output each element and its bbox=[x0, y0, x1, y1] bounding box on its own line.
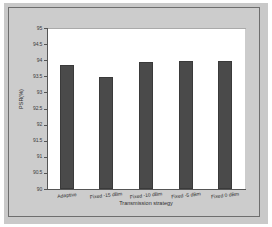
y-axis-tick-label: 95 bbox=[17, 26, 42, 31]
y-axis-tick bbox=[44, 173, 48, 174]
bar bbox=[139, 62, 153, 189]
y-axis-tick bbox=[44, 157, 48, 158]
y-axis-tick bbox=[44, 28, 48, 29]
y-axis-tick bbox=[44, 44, 48, 45]
y-axis-tick bbox=[44, 92, 48, 93]
bar bbox=[179, 61, 193, 189]
bar bbox=[60, 65, 74, 189]
y-axis-title: PSR(%) bbox=[18, 69, 24, 129]
y-axis-tick bbox=[44, 76, 48, 77]
y-axis-tick-label: 94.5 bbox=[17, 42, 42, 47]
axis-line-top bbox=[47, 28, 246, 29]
y-axis-tick-label: 90.5 bbox=[17, 170, 42, 175]
y-axis-tick-label: 91 bbox=[17, 154, 42, 159]
y-axis-tick-label: 91.5 bbox=[17, 138, 42, 143]
chart-screenshot: 9090.59191.59292.59393.59494.595 PSR(%) … bbox=[0, 0, 272, 227]
x-axis-title: Transmission strategy bbox=[47, 200, 245, 206]
y-axis-tick bbox=[44, 189, 48, 190]
y-axis-tick bbox=[44, 125, 48, 126]
bar bbox=[99, 77, 113, 189]
bar bbox=[218, 61, 232, 189]
y-axis-tick bbox=[44, 141, 48, 142]
figure-frame: 9090.59191.59292.59393.59494.595 PSR(%) … bbox=[8, 7, 260, 217]
y-axis-tick-label: 90 bbox=[17, 187, 42, 192]
y-axis-tick bbox=[44, 109, 48, 110]
y-axis-tick bbox=[44, 60, 48, 61]
y-axis-tick-label: 94 bbox=[17, 58, 42, 63]
